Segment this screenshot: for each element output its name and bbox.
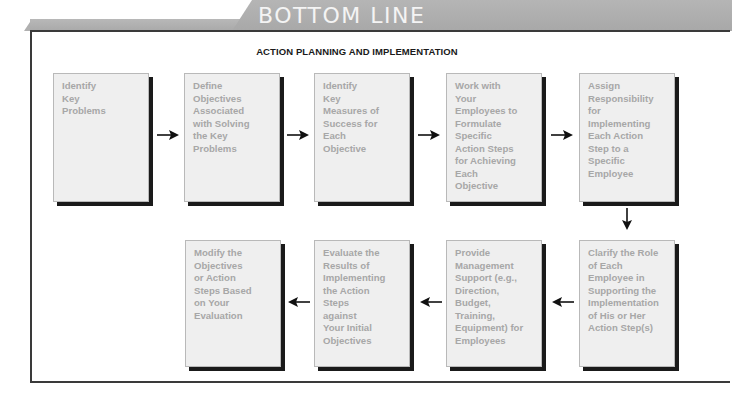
banner-title: BOTTOM LINE	[258, 0, 425, 31]
step-6-clarify-role: Clarify the Role of Each Employee in Sup…	[579, 240, 675, 367]
step-8-evaluate-results: Evaluate the Results of Implementing the…	[314, 240, 410, 367]
step-3-identify-measures: Identify Key Measures of Success for Eac…	[314, 73, 410, 202]
arrow-left-icon	[552, 297, 574, 307]
step-7-provide-support: Provide Management Support (e.g., Direct…	[446, 240, 542, 367]
step-1-identify-key-problems: Identify Key Problems	[53, 73, 149, 202]
arrow-down-icon	[622, 208, 632, 230]
arrow-right-icon	[157, 130, 179, 140]
step-9-modify-objectives: Modify the Objectives or Action Steps Ba…	[185, 240, 281, 367]
arrow-right-icon	[551, 130, 573, 140]
arrow-left-icon	[288, 297, 310, 307]
step-2-define-objectives: Define Objectives Associated with Solvin…	[184, 73, 280, 202]
arrow-right-icon	[287, 130, 309, 140]
arrow-right-icon	[418, 130, 440, 140]
diagram-title: ACTION PLANNING AND IMPLEMENTATION	[0, 46, 714, 57]
step-5-assign-responsibility: Assign Responsibility for Implementing E…	[579, 73, 675, 202]
arrow-left-icon	[420, 297, 442, 307]
step-4-formulate-action-steps: Work with Your Employees to Formulate Sp…	[446, 73, 542, 202]
